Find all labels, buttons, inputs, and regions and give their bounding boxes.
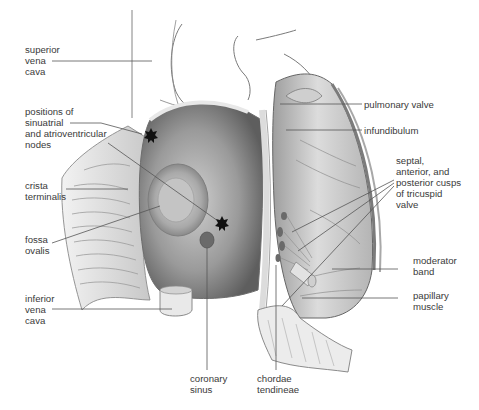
pulmonary-trunk-outline — [234, 36, 250, 100]
label-line: valve — [396, 199, 461, 210]
label-line: anterior, and — [396, 166, 461, 177]
right-ventricle — [273, 74, 381, 318]
label-coronary-sinus: coronary sinus — [190, 373, 227, 395]
label-line: infundibulum — [364, 125, 418, 136]
label-line: pulmonary valve — [364, 99, 434, 110]
label-line: of tricuspid — [396, 188, 461, 199]
label-line: crista — [25, 180, 66, 191]
label-line: inferior — [25, 293, 54, 304]
label-line: vena — [25, 304, 54, 315]
heart-diagram: superior vena cava positions of sinuatri… — [0, 0, 479, 410]
label-infundibulum: infundibulum — [364, 125, 418, 136]
label-line: ovalis — [25, 245, 50, 256]
label-fossa-ovalis: fossa ovalis — [25, 234, 50, 256]
label-line: moderator — [413, 255, 457, 266]
vessel-edge — [256, 30, 296, 40]
label-line: chordae — [257, 373, 299, 384]
label-inferior-vena-cava: inferior vena cava — [25, 293, 54, 326]
right-atrium — [139, 102, 262, 298]
label-line: nodes — [25, 139, 107, 150]
label-line: and atrioventricular — [25, 128, 107, 139]
label-pulmonary-valve: pulmonary valve — [364, 99, 434, 110]
label-line: band — [413, 266, 457, 277]
label-line: sinus — [190, 384, 227, 395]
label-line: septal, — [396, 155, 461, 166]
label-line: muscle — [413, 301, 449, 312]
label-line: terminalis — [25, 191, 66, 202]
label-line: superior — [25, 44, 60, 55]
inferior-vena-cava-vessel — [160, 286, 192, 316]
label-line: positions of — [25, 106, 107, 117]
label-line: vena — [25, 55, 60, 66]
label-superior-vena-cava: superior vena cava — [25, 44, 60, 77]
pectinate-flap — [62, 126, 150, 310]
label-papillary-muscle: papillary muscle — [413, 290, 449, 312]
coronary-sinus-opening — [200, 232, 214, 248]
label-line: coronary — [190, 373, 227, 384]
label-line: cava — [25, 66, 60, 77]
label-line: papillary — [413, 290, 449, 301]
label-line: posterior cusps — [396, 177, 461, 188]
label-sa-av-nodes: positions of sinuatrial and atrioventric… — [25, 106, 107, 150]
label-chordae-tendineae: chordae tendineae — [257, 373, 299, 395]
label-tricuspid-cusps: septal, anterior, and posterior cusps of… — [396, 155, 461, 210]
label-moderator-band: moderator band — [413, 255, 457, 277]
label-line: fossa — [25, 234, 50, 245]
label-line: sinuatrial — [25, 117, 107, 128]
label-line: cava — [25, 315, 54, 326]
label-crista-terminalis: crista terminalis — [25, 180, 66, 202]
label-line: tendineae — [257, 384, 299, 395]
